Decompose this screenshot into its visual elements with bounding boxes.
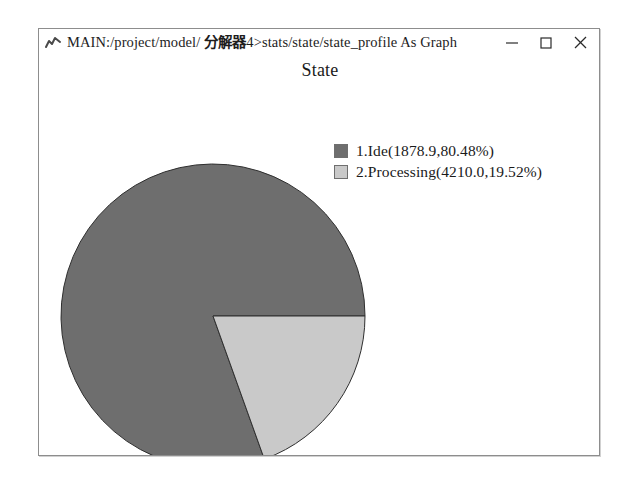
window-title-prefix: MAIN:/project/model/: [67, 35, 204, 50]
close-button[interactable]: [563, 31, 597, 55]
chart-area: State 1.Ide(1878.9,80.48%) 2.Processing(…: [39, 56, 600, 456]
maximize-icon: [539, 36, 553, 50]
legend-item-processing[interactable]: 2.Processing(4210.0,19.52%): [334, 161, 600, 182]
window-title-suffix: 4>stats/state/state_profile As Graph: [246, 35, 457, 50]
graph-window: MAIN:/project/model/ 分解器4>stats/state/st…: [38, 28, 600, 456]
chart-title: State: [39, 60, 600, 81]
maximize-button[interactable]: [529, 31, 563, 55]
screenshot-canvas: MAIN:/project/model/ 分解器4>stats/state/st…: [0, 0, 634, 481]
window-title-cjk: 分解器: [204, 35, 246, 50]
close-icon: [573, 35, 588, 50]
legend-swatch-processing: [334, 165, 348, 179]
pie-chart: [51, 116, 381, 456]
minimize-icon: [505, 37, 519, 49]
legend-label-processing: 2.Processing(4210.0,19.52%): [356, 164, 542, 180]
minimize-button[interactable]: [495, 31, 529, 55]
window-title: MAIN:/project/model/ 分解器4>stats/state/st…: [67, 35, 495, 50]
window-titlebar[interactable]: MAIN:/project/model/ 分解器4>stats/state/st…: [39, 29, 599, 56]
legend-item-ide[interactable]: 1.Ide(1878.9,80.48%): [334, 140, 600, 161]
chart-legend: 1.Ide(1878.9,80.48%) 2.Processing(4210.0…: [334, 140, 600, 182]
line-chart-icon: [45, 36, 61, 50]
legend-label-ide: 1.Ide(1878.9,80.48%): [356, 143, 494, 159]
legend-swatch-ide: [334, 144, 348, 158]
